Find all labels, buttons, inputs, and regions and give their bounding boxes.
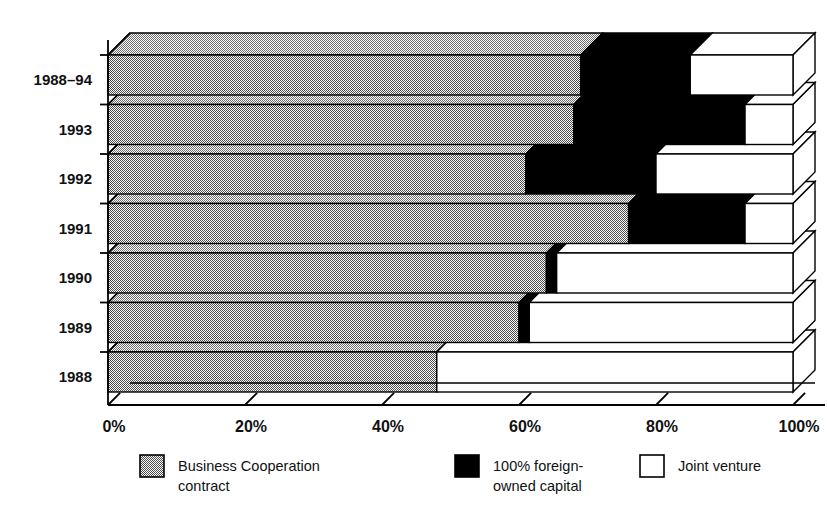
- bar-group: [108, 33, 815, 95]
- y-axis-label-1991: 1991: [59, 220, 92, 237]
- legend-item: Joint venture: [640, 455, 761, 477]
- y-axis-label-1989: 1989: [59, 319, 92, 336]
- legend-label-line1: Joint venture: [678, 458, 761, 474]
- y-axis-label-1990: 1990: [59, 269, 92, 286]
- x-axis-label-20pct: 20%: [235, 418, 267, 435]
- legend-swatch-joint-venture: [640, 455, 664, 477]
- bar-segment-foreign-owned-capital: [581, 55, 691, 95]
- legend-swatch-business-cooperation: [140, 455, 164, 477]
- bar-segment-foreign-owned-capital: [519, 303, 529, 343]
- bar-segment-joint-venture: [557, 253, 793, 293]
- bar-segment-top-foreign-owned-capital: [581, 33, 713, 55]
- stacked-bar-chart-3d: 1988–94199319921991199019891988 0%20%40%…: [0, 0, 827, 520]
- bar-segment-business-cooperation: [108, 105, 574, 145]
- bar-segment-joint-venture: [745, 105, 793, 145]
- plot-area: [108, 33, 815, 392]
- bar-segment-foreign-owned-capital: [574, 105, 745, 145]
- x-axis-label-40pct: 40%: [372, 418, 404, 435]
- legend-label-line2: contract: [178, 478, 230, 494]
- y-axis-label-1992: 1992: [59, 170, 92, 187]
- legend-label-line2: owned capital: [493, 478, 582, 494]
- bar-segment-joint-venture: [690, 55, 793, 95]
- legend-swatch-foreign-owned-capital: [455, 455, 479, 477]
- bar-segment-joint-venture: [437, 352, 793, 392]
- y-axis-label-1988: 1988: [59, 368, 92, 385]
- bar-segment-foreign-owned-capital: [526, 154, 656, 194]
- x-axis-label-60pct: 60%: [509, 418, 541, 435]
- bar-segment-joint-venture: [656, 154, 793, 194]
- bar-segment-joint-venture: [529, 303, 793, 343]
- y-axis-label-1988-94: 1988–94: [34, 71, 93, 88]
- x-axis-label-100pct: 100%: [779, 418, 820, 435]
- legend-label-line1: 100% foreign-: [493, 458, 583, 474]
- bar-segment-foreign-owned-capital: [629, 204, 745, 244]
- bar-segment-joint-venture: [745, 204, 793, 244]
- chart-figure: 1988–94199319921991199019891988 0%20%40%…: [0, 0, 827, 520]
- bar-segment-business-cooperation: [108, 55, 581, 95]
- y-axis-label-1993: 1993: [59, 121, 92, 138]
- x-axis-label-0pct: 0%: [102, 418, 125, 435]
- bar-segment-business-cooperation: [108, 253, 546, 293]
- bar-segment-business-cooperation: [108, 154, 526, 194]
- bar-segment-business-cooperation: [108, 204, 629, 244]
- bar-segment-business-cooperation: [108, 303, 519, 343]
- bar-segment-foreign-owned-capital: [546, 253, 556, 293]
- x-axis-label-80pct: 80%: [646, 418, 678, 435]
- bar-segment-top-business-cooperation: [108, 33, 603, 55]
- bar-segment-business-cooperation: [108, 352, 437, 392]
- legend-label-line1: Business Cooperation: [178, 458, 320, 474]
